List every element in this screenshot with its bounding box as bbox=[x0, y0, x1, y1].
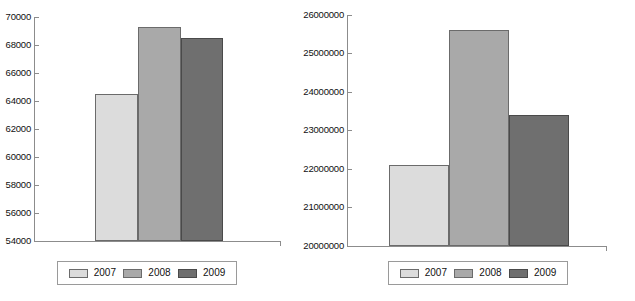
left-chart-legend: 2007 2008 2009 bbox=[57, 261, 237, 285]
right-x-axis-line bbox=[347, 246, 607, 247]
right-ytick-label-1: 25000000 bbox=[298, 48, 344, 58]
right-bar-2009 bbox=[509, 115, 569, 246]
right-plot-area: 26000000 25000000 24000000 23000000 2200… bbox=[300, 0, 635, 258]
right-ytick-label-3: 23000000 bbox=[298, 125, 344, 135]
right-chart-legend: 2007 2008 2009 bbox=[388, 261, 568, 285]
right-ytick-label-2: 24000000 bbox=[298, 87, 344, 97]
left-x-axis-end-tick bbox=[280, 241, 281, 246]
right-x-axis-end-tick bbox=[606, 246, 607, 251]
left-ytick-label-0: 70000 bbox=[0, 12, 31, 22]
right-legend-label-2009: 2009 bbox=[534, 268, 556, 278]
right-ytick-label-6: 20000000 bbox=[298, 241, 344, 251]
left-ytick-label-2: 66000 bbox=[0, 68, 31, 78]
left-ytick-label-4: 62000 bbox=[0, 124, 31, 134]
left-plot-area: 70000 68000 66000 64000 62000 60000 5800… bbox=[0, 0, 300, 258]
right-bar-chart: 26000000 25000000 24000000 23000000 2200… bbox=[300, 0, 635, 301]
left-bar-2007 bbox=[95, 94, 138, 241]
left-bar-2008 bbox=[138, 27, 181, 241]
left-ytick-label-6: 58000 bbox=[0, 180, 31, 190]
legend-swatch-icon-2008 bbox=[123, 269, 142, 278]
left-ytick-label-5: 60000 bbox=[0, 152, 31, 162]
left-bar-2009 bbox=[181, 38, 223, 241]
left-ytick-label-8: 54000 bbox=[0, 236, 31, 246]
right-ytick-label-4: 22000000 bbox=[298, 164, 344, 174]
right-legend-item-2007[interactable]: 2007 bbox=[400, 268, 447, 278]
left-ytick-label-7: 56000 bbox=[0, 208, 31, 218]
right-bar-2008 bbox=[449, 30, 509, 246]
left-legend-item-2007[interactable]: 2007 bbox=[69, 268, 116, 278]
legend-swatch-icon-2008 bbox=[454, 269, 473, 278]
right-legend-item-2008[interactable]: 2008 bbox=[454, 268, 501, 278]
chart-pair-figure: 70000 68000 66000 64000 62000 60000 5800… bbox=[0, 0, 635, 301]
legend-swatch-icon-2009 bbox=[509, 269, 528, 278]
left-legend-label-2009: 2009 bbox=[203, 268, 225, 278]
right-bar-2007 bbox=[389, 165, 449, 246]
legend-swatch-icon-2009 bbox=[178, 269, 197, 278]
legend-swatch-icon-2007 bbox=[400, 269, 419, 278]
left-ytick-label-3: 64000 bbox=[0, 96, 31, 106]
right-legend-label-2008: 2008 bbox=[479, 268, 501, 278]
left-legend-label-2007: 2007 bbox=[94, 268, 116, 278]
left-legend-label-2008: 2008 bbox=[148, 268, 170, 278]
left-bar-chart: 70000 68000 66000 64000 62000 60000 5800… bbox=[0, 0, 300, 301]
right-legend-item-2009[interactable]: 2009 bbox=[509, 268, 556, 278]
left-y-axis-line bbox=[34, 17, 35, 242]
legend-swatch-icon-2007 bbox=[69, 269, 88, 278]
left-legend-item-2009[interactable]: 2009 bbox=[178, 268, 225, 278]
left-ytick-label-1: 68000 bbox=[0, 40, 31, 50]
right-y-axis-line bbox=[347, 15, 348, 247]
right-legend-label-2007: 2007 bbox=[425, 268, 447, 278]
right-ytick-label-0: 26000000 bbox=[298, 10, 344, 20]
left-x-axis-line bbox=[34, 241, 281, 242]
left-legend-item-2008[interactable]: 2008 bbox=[123, 268, 170, 278]
right-ytick-label-5: 21000000 bbox=[298, 202, 344, 212]
